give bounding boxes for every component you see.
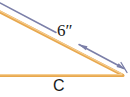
triangle-upper-side-highlight — [0, 10, 122, 74]
geometry-diagram: 6″ C — [0, 0, 130, 97]
dimension-arrowhead-left — [79, 44, 88, 50]
hypotenuse-length-label: 6″ — [57, 22, 73, 39]
triangle-dimension-drawing — [0, 0, 130, 97]
base-side-label: C — [53, 78, 65, 94]
